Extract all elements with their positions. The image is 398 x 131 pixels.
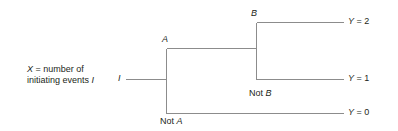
node-label-not-b: Not B bbox=[249, 88, 272, 99]
outcome-label-y1: Y = 1 bbox=[348, 73, 369, 84]
node-label-not-a: Not A bbox=[160, 116, 183, 127]
description-line-2: initiating events I bbox=[27, 75, 94, 86]
outcome-label-y2: Y = 2 bbox=[348, 16, 369, 27]
node-label-a: A bbox=[162, 34, 168, 45]
initiating-events-description: X = number of initiating events I bbox=[27, 64, 94, 86]
node-label-initiator: I bbox=[118, 73, 121, 84]
node-label-b: B bbox=[251, 8, 257, 19]
outcome-label-y0: Y = 0 bbox=[348, 107, 369, 118]
description-line-1: X = number of bbox=[27, 64, 94, 75]
event-tree-diagram: X = number of initiating events I I A No… bbox=[0, 0, 398, 131]
